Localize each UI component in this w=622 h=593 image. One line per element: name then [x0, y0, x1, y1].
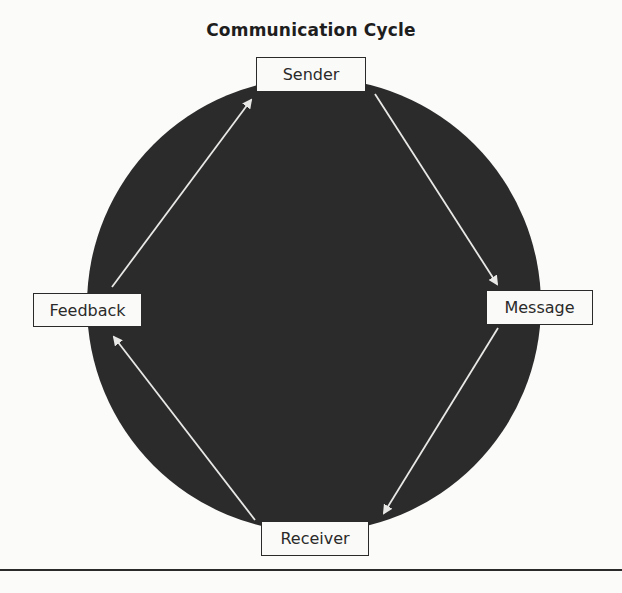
node-message: Message — [486, 290, 593, 325]
bottom-divider — [0, 569, 622, 571]
node-message-label: Message — [504, 298, 574, 317]
node-receiver-label: Receiver — [280, 529, 349, 548]
node-feedback: Feedback — [33, 293, 142, 327]
cycle-circle — [87, 78, 541, 532]
node-sender: Sender — [256, 57, 366, 92]
node-feedback-label: Feedback — [49, 301, 125, 320]
node-sender-label: Sender — [283, 65, 340, 84]
node-receiver: Receiver — [261, 521, 369, 556]
